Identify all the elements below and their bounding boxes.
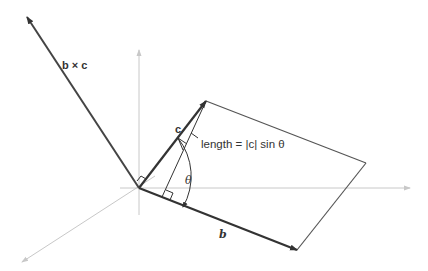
label-c: c [175, 124, 181, 135]
coordinate-axes [22, 50, 410, 262]
label-height-annotation: length = |c| sin θ [201, 139, 285, 151]
angle-arc [178, 138, 191, 207]
cross-product-diagram [0, 0, 428, 271]
parallelogram [206, 101, 366, 250]
label-theta: θ [185, 175, 192, 186]
z-axis [22, 176, 155, 262]
label-b: b [219, 229, 227, 240]
annotation-leader [191, 133, 198, 138]
vector-b [139, 188, 297, 250]
label-b-cross-c: b × c [62, 60, 87, 71]
vector-b-cross-c [27, 17, 139, 188]
